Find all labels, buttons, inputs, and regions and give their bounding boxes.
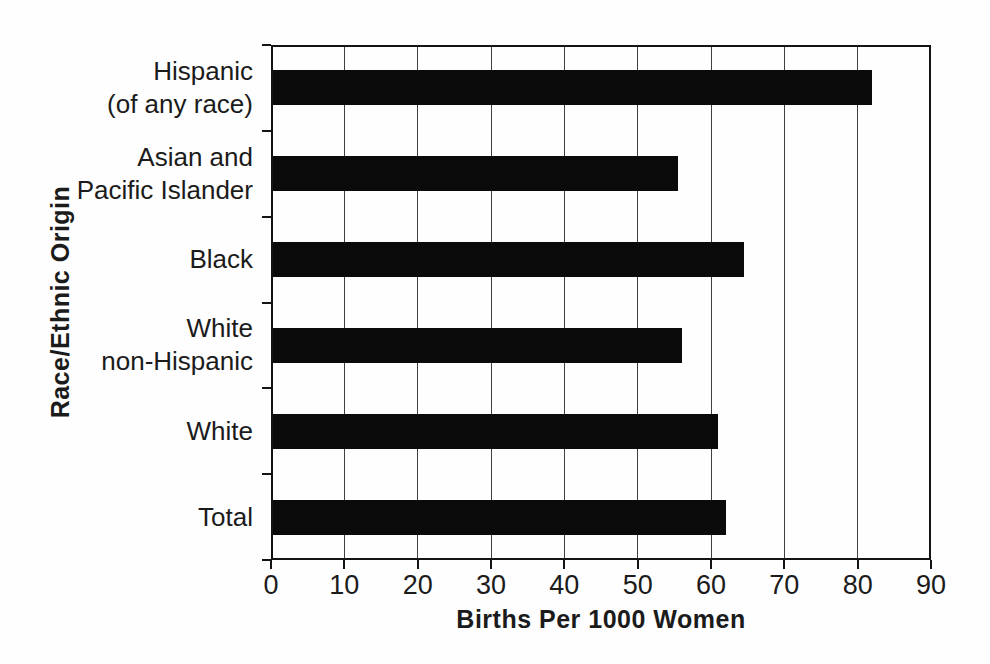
plot-area xyxy=(271,45,931,560)
category-label-black: Black xyxy=(0,217,262,303)
y-axis-tick xyxy=(262,216,271,218)
bar-hispanic-of-any-race xyxy=(271,70,872,105)
x-axis-tick-0 xyxy=(270,560,272,569)
x-axis-title: Births Per 1000 Women xyxy=(271,605,931,634)
x-axis-tick-10 xyxy=(343,560,345,569)
gridline-80 xyxy=(857,45,858,560)
y-axis-tick xyxy=(262,44,271,46)
gridline-50 xyxy=(637,45,638,560)
x-axis-tick-40 xyxy=(563,560,565,569)
y-axis-tick xyxy=(262,387,271,389)
gridline-20 xyxy=(417,45,418,560)
x-axis-tick-label-80: 80 xyxy=(818,571,898,599)
bar-black xyxy=(271,242,744,277)
bar-asian-and-pacific-islander xyxy=(271,156,678,191)
x-axis-tick-60 xyxy=(710,560,712,569)
category-label-asian-and-pacific-islander: Asian and Pacific Islander xyxy=(0,131,262,217)
y-axis-tick xyxy=(262,473,271,475)
x-axis-tick-50 xyxy=(637,560,639,569)
x-axis-tick-label-20: 20 xyxy=(378,571,458,599)
x-axis-tick-label-40: 40 xyxy=(524,571,604,599)
x-axis-tick-80 xyxy=(857,560,859,569)
x-axis-tick-label-50: 50 xyxy=(598,571,678,599)
gridline-40 xyxy=(564,45,565,560)
y-axis-tick xyxy=(262,130,271,132)
gridline-60 xyxy=(711,45,712,560)
x-axis-tick-20 xyxy=(417,560,419,569)
bar-total xyxy=(271,500,726,535)
x-axis-tick-90 xyxy=(930,560,932,569)
y-axis-tick xyxy=(262,302,271,304)
gridline-30 xyxy=(491,45,492,560)
x-axis-tick-label-0: 0 xyxy=(231,571,311,599)
x-axis-tick-70 xyxy=(783,560,785,569)
category-label-white: White xyxy=(0,388,262,474)
x-axis-tick-label-10: 10 xyxy=(304,571,384,599)
gridline-10 xyxy=(344,45,345,560)
x-axis-tick-label-30: 30 xyxy=(451,571,531,599)
x-axis-tick-label-90: 90 xyxy=(891,571,971,599)
bar-white xyxy=(271,414,718,449)
x-axis-tick-30 xyxy=(490,560,492,569)
category-label-white-non-hispanic: White non-Hispanic xyxy=(0,303,262,389)
category-label-total: Total xyxy=(0,474,262,560)
bar-white-non-hispanic xyxy=(271,328,682,363)
x-axis-tick-label-60: 60 xyxy=(671,571,751,599)
x-axis-tick-label-70: 70 xyxy=(744,571,824,599)
category-label-hispanic-of-any-race: Hispanic (of any race) xyxy=(0,45,262,131)
fertility-rate-bar-chart: Race/Ethnic Origin Hispanic (of any race… xyxy=(0,0,990,664)
gridline-70 xyxy=(784,45,785,560)
plot-frame xyxy=(271,45,931,560)
